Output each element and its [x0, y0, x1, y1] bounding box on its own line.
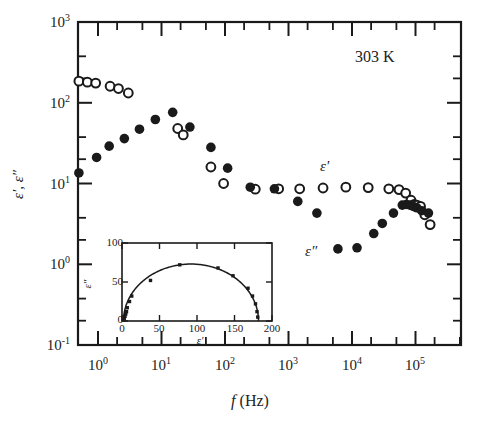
temperature-annotation: 303 K	[355, 48, 395, 66]
data-point	[245, 182, 255, 192]
data-point	[295, 184, 304, 193]
data-point	[223, 163, 233, 173]
data-point	[293, 197, 303, 207]
inset-data-point	[256, 315, 259, 318]
data-point	[378, 219, 388, 229]
inset-y-tick-100: 100	[95, 236, 123, 248]
series-label-eps-imag: ε″	[305, 243, 317, 260]
data-point	[207, 163, 216, 172]
data-point	[91, 79, 100, 88]
data-point	[219, 179, 228, 188]
data-point	[333, 244, 343, 254]
inset-data-point	[254, 302, 257, 305]
data-point	[312, 208, 322, 218]
inset-x-axis-title: ε′	[188, 334, 212, 346]
data-point	[74, 168, 84, 178]
y-tick-label-1000: 103	[18, 12, 70, 31]
x-tick-label-100: 102	[200, 355, 250, 374]
x-tick-label-1: 100	[73, 355, 123, 374]
inset-cole-cole-plot	[122, 243, 272, 321]
inset-x-tick-50: 50	[147, 322, 171, 334]
inset-x-tick-100: 100	[184, 322, 210, 334]
data-point	[270, 184, 280, 194]
y-tick-label-100: 102	[18, 93, 70, 112]
data-point	[114, 84, 123, 93]
inset-data-point	[178, 263, 181, 266]
inset-data-point	[246, 287, 249, 290]
inset-data-point	[130, 294, 133, 297]
x-tick-label-10000: 104	[327, 355, 377, 374]
y-tick-label-1: 100	[18, 254, 70, 273]
x-axis-title: f (Hz)	[195, 392, 305, 410]
data-point	[185, 122, 195, 132]
data-point	[124, 89, 133, 98]
inset-data-point	[216, 266, 219, 269]
x-tick-label-100000: 105	[390, 355, 440, 374]
data-point	[424, 208, 434, 218]
inset-data-point	[149, 279, 152, 282]
data-point	[151, 115, 161, 125]
inset-y-axis-title: ε″	[81, 269, 93, 299]
data-point	[364, 183, 373, 192]
inset-x-tick-200: 200	[259, 322, 285, 334]
inset-data-point	[128, 300, 131, 303]
series-label-eps-real: ε′	[320, 158, 329, 175]
data-point	[369, 229, 379, 239]
data-point	[104, 141, 114, 151]
data-point	[206, 143, 216, 153]
y-tick-label-0_1: 10-1	[12, 335, 70, 354]
data-point	[135, 124, 145, 134]
y-axis-title: ε′, ε″	[10, 149, 27, 221]
data-point	[384, 184, 393, 193]
data-point	[74, 77, 83, 86]
inset-data-point	[231, 274, 234, 277]
data-point	[319, 184, 328, 193]
dielectric-spectrum-figure: 103 102 101 100 10-1 100 101 102 103 104…	[0, 0, 479, 430]
inset-data-point	[255, 310, 258, 313]
x-tick-label-1000: 103	[263, 355, 313, 374]
inset-x-tick-150: 150	[222, 322, 248, 334]
data-point	[179, 130, 188, 139]
data-point	[352, 243, 362, 253]
data-point	[92, 153, 102, 163]
data-point	[168, 108, 178, 118]
data-point	[426, 220, 435, 229]
inset-data-point	[126, 306, 129, 309]
series-eps-real-points	[74, 77, 434, 229]
data-point	[389, 208, 399, 218]
inset-data-point	[251, 294, 254, 297]
x-tick-label-10: 101	[136, 355, 186, 374]
inset-x-tick-0: 0	[110, 322, 134, 334]
inset-y-tick-50: 50	[95, 275, 123, 287]
data-point	[341, 183, 350, 192]
inset-data-point	[125, 310, 128, 313]
series-eps-imag-points	[74, 108, 433, 254]
data-point	[120, 134, 130, 144]
